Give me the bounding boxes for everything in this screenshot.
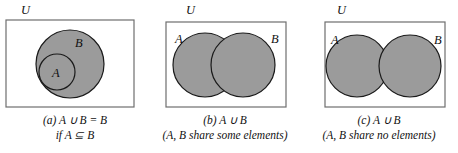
- panel-a: U B A (a) A ∪ B = B if A ⊆ B: [0, 0, 150, 153]
- set-label-a-c: A: [330, 33, 339, 47]
- caption-a-line2: if A ⊆ B: [0, 128, 150, 143]
- set-label-a-a: A: [51, 66, 60, 80]
- caption-a-line1: (a) A ∪ B = B: [43, 114, 107, 126]
- caption-c-line2: (A, B share no elements): [300, 128, 458, 143]
- caption-c-line1: (c) A ∪ B: [300, 113, 458, 128]
- set-label-b-a: B: [75, 36, 83, 50]
- set-b-circle-b: [211, 33, 275, 97]
- venn-c-graphic: A B: [300, 0, 458, 110]
- caption-b: (b) A ∪ B (A, B share some elements): [150, 113, 300, 142]
- panel-c: U A B (c) A ∪ B (A, B share no elements): [300, 0, 458, 153]
- caption-b-line2: (A, B share some elements): [150, 128, 300, 143]
- venn-b-graphic: A B: [150, 0, 300, 110]
- caption-a: (a) A ∪ B = B if A ⊆ B: [0, 113, 150, 142]
- set-label-a-b: A: [174, 32, 183, 46]
- caption-b-line1: (b) A ∪ B: [150, 113, 300, 128]
- set-label-b-c: B: [434, 33, 442, 47]
- set-b-circle-c: [379, 35, 441, 97]
- venn-a-graphic: B A: [0, 0, 150, 110]
- panel-b: U A B (b) A ∪ B (A, B share some element…: [150, 0, 300, 153]
- caption-c: (c) A ∪ B (A, B share no elements): [300, 113, 458, 142]
- set-label-b-b: B: [271, 32, 279, 46]
- venn-diagram-figure: U B A (a) A ∪ B = B if A ⊆ B U A B (b) A…: [0, 0, 458, 153]
